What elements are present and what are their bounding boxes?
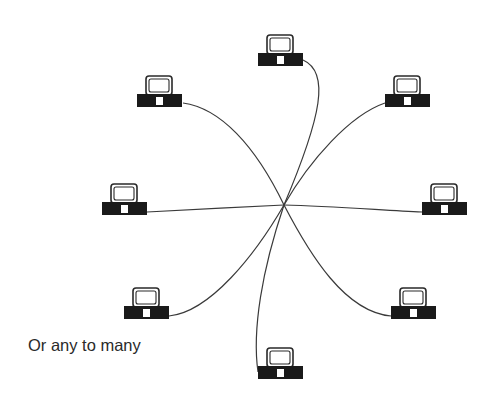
computer-bottom-icon [258,348,303,379]
link-right [284,205,422,212]
computer-lower-right-icon [391,288,436,319]
diagram-caption: Or any to many [28,336,141,355]
computer-upper-left-icon [137,76,182,107]
link-lower-left [169,205,284,316]
connection-lines [147,60,422,372]
link-left [147,205,284,212]
link-upper-left [183,103,284,205]
computer-lower-left-icon [124,288,169,319]
computer-right-icon [422,184,467,215]
computer-left-icon [102,184,147,215]
link-top [284,60,319,205]
link-lower-right [284,205,391,316]
computer-top-icon [258,35,303,66]
link-upper-right [284,103,385,205]
computer-upper-right-icon [385,76,430,107]
link-bottom [256,205,284,372]
